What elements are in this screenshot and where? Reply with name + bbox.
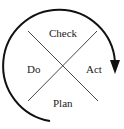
label-check: Check — [49, 28, 77, 39]
label-act: Act — [86, 64, 102, 75]
arrowhead-icon — [110, 60, 120, 74]
label-plan: Plan — [53, 98, 73, 109]
pdca-diagram — [0, 0, 124, 129]
label-do: Do — [27, 64, 40, 75]
